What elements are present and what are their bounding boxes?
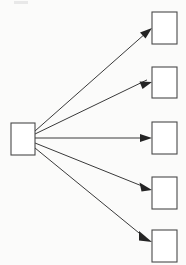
arrowhead-icon [139,231,152,242]
diagram-svg [0,0,186,265]
target-node-5[interactable] [152,230,177,262]
edge-to-target-1[interactable] [35,28,152,131]
edge-to-target-4[interactable] [35,143,152,192]
target-node-1[interactable] [152,12,177,44]
target-node-4[interactable] [152,177,177,209]
edge-to-target-2[interactable] [35,80,152,134]
edge-to-target-5[interactable] [35,148,152,242]
edge-line [35,80,147,134]
arrowhead-icon [140,134,152,142]
edge-line [35,32,147,131]
edge-line [35,148,147,240]
target-node-3[interactable] [152,122,177,154]
source-node[interactable] [11,123,35,155]
edge-line [35,143,147,188]
edge-to-target-3[interactable] [35,134,152,142]
target-node-2[interactable] [152,67,177,98]
arrowhead-icon [140,82,153,90]
diagram-canvas [0,0,186,265]
arrowhead-icon [140,183,153,192]
edge-group [35,28,152,242]
